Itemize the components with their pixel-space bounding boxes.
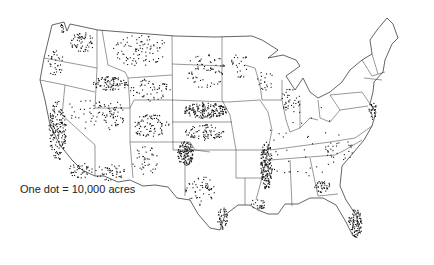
us-dot-density-map	[0, 0, 434, 265]
map-legend: One dot = 10,000 acres	[20, 183, 135, 195]
us-outline	[40, 18, 398, 236]
